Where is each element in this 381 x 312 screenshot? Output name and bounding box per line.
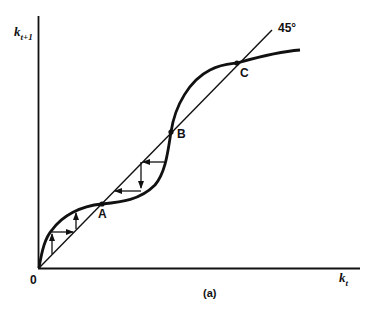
diagonal-45-line [39,30,272,268]
diagonal-label: 45° [278,22,296,34]
origin-label: 0 [30,274,37,286]
point-a-label: A [98,208,107,220]
phase-diagram: kt+1 kt 0 45° A B C (a) [0,0,381,312]
point-b-marker [168,129,173,134]
point-a-marker [99,201,104,206]
point-c-label: C [240,67,249,79]
cobweb-arrows-middle [115,162,166,191]
x-axis-label: kt [339,271,348,288]
figure-caption: (a) [203,288,216,299]
point-b-label: B [177,128,186,140]
diagram-canvas [0,0,381,312]
transition-curve [39,50,300,268]
y-axis-label: kt+1 [14,25,33,42]
point-c-marker [234,60,239,65]
